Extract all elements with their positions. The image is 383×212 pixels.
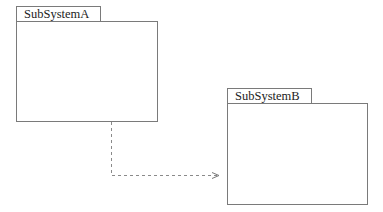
dependency-line (112, 122, 219, 176)
dependency-connector[interactable] (0, 0, 383, 212)
